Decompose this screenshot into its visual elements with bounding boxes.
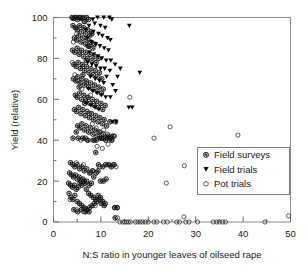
x-tick-label: 20 bbox=[143, 228, 154, 239]
data-point bbox=[93, 150, 98, 155]
data-point bbox=[110, 83, 115, 87]
data-point bbox=[152, 136, 156, 140]
x-axis-title: N:S ratio in younger leaves of oilseed r… bbox=[82, 249, 261, 260]
data-point bbox=[126, 105, 131, 109]
y-tick-label: 60 bbox=[37, 94, 48, 105]
data-point bbox=[108, 95, 113, 99]
data-point bbox=[108, 38, 113, 42]
data-point bbox=[108, 69, 113, 73]
legend-item-label: Field trials bbox=[214, 164, 258, 175]
data-point bbox=[98, 44, 103, 48]
data-point bbox=[97, 70, 102, 75]
data-point bbox=[103, 26, 108, 30]
legend: Field surveysField trialsPot trials bbox=[198, 148, 290, 195]
data-point bbox=[103, 103, 108, 108]
data-point bbox=[106, 142, 110, 146]
data-point bbox=[98, 24, 103, 28]
data-point bbox=[104, 75, 109, 79]
data-point bbox=[182, 215, 186, 219]
data-point bbox=[127, 24, 132, 28]
data-point bbox=[109, 18, 114, 22]
data-point bbox=[113, 62, 118, 66]
y-tick-label: 80 bbox=[37, 53, 48, 64]
data-point bbox=[236, 133, 240, 137]
data-point bbox=[104, 58, 109, 62]
y-axis-title: Yield (relative) bbox=[9, 90, 20, 150]
data-point bbox=[71, 136, 76, 141]
legend-item-label: Field surveys bbox=[214, 149, 270, 160]
data-point bbox=[102, 46, 107, 50]
y-tick-label: 100 bbox=[32, 12, 48, 23]
x-axis-tick-labels: 01020304050 bbox=[51, 228, 296, 239]
data-point bbox=[99, 93, 104, 97]
data-point bbox=[100, 146, 104, 150]
data-point bbox=[182, 164, 186, 168]
x-tick-label: 10 bbox=[96, 228, 107, 239]
y-tick-label: 40 bbox=[37, 135, 48, 146]
data-point bbox=[106, 48, 111, 52]
data-point bbox=[100, 34, 105, 38]
x-axis-ticks bbox=[54, 217, 291, 223]
data-point bbox=[164, 181, 168, 185]
legend-item-label: Pot trials bbox=[214, 178, 251, 189]
data-point bbox=[95, 144, 99, 148]
y-tick-label: 0 bbox=[42, 216, 47, 227]
data-point bbox=[104, 124, 109, 129]
data-point bbox=[103, 95, 108, 99]
series-field-trials bbox=[83, 15, 142, 124]
data-point bbox=[101, 81, 106, 85]
data-point bbox=[128, 95, 132, 99]
x-tick-label: 50 bbox=[285, 228, 296, 239]
data-point bbox=[137, 71, 142, 75]
data-point bbox=[92, 22, 97, 26]
data-point bbox=[113, 89, 118, 93]
data-point bbox=[115, 75, 120, 79]
x-tick-label: 30 bbox=[190, 228, 201, 239]
data-point bbox=[72, 193, 77, 198]
data-point bbox=[101, 87, 106, 92]
y-axis-tick-labels: 020406080100 bbox=[32, 12, 48, 228]
x-tick-label: 0 bbox=[51, 228, 56, 239]
data-point bbox=[113, 216, 118, 221]
data-point bbox=[108, 58, 113, 62]
y-axis-ticks bbox=[54, 18, 60, 223]
series-field-surveys bbox=[66, 15, 119, 220]
data-point bbox=[102, 117, 107, 122]
data-point bbox=[168, 125, 172, 129]
data-point bbox=[74, 130, 79, 135]
scatter-plot-figure: 01020304050 020406080100 N:S ratio in yo… bbox=[0, 0, 306, 269]
data-point bbox=[102, 67, 107, 71]
plot-canvas: 01020304050 020406080100 N:S ratio in yo… bbox=[0, 0, 306, 269]
y-tick-label: 20 bbox=[37, 176, 48, 187]
x-tick-label: 40 bbox=[238, 228, 249, 239]
data-point bbox=[118, 67, 123, 71]
